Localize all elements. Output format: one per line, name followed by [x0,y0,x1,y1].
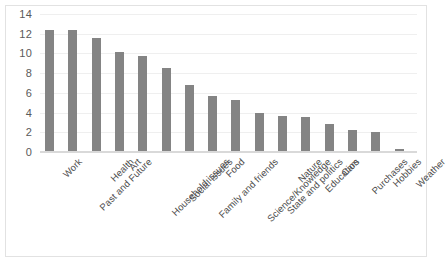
y-axis-tick-label: 6 [26,87,32,99]
y-axis-tick-label: 2 [26,126,32,138]
y-axis-tick-label: 10 [19,47,32,59]
bar [278,116,287,151]
y-axis-tick-label: 4 [26,107,32,119]
bar [301,117,310,152]
plot-area [40,14,417,152]
bar [185,85,194,151]
bar [92,38,101,151]
x-axis-label: Social issues [187,156,235,204]
x-axis-line [40,151,417,152]
y-axis: 02468101214 [0,14,36,152]
bar [255,113,264,151]
bar [348,130,357,151]
bar [208,96,217,151]
bar [162,68,171,151]
bar [325,124,334,151]
bar-series [40,14,417,151]
bar [231,100,240,151]
bar [115,52,124,151]
y-axis-tick-label: 8 [26,67,32,79]
bar [138,56,147,151]
y-axis-tick-label: 12 [19,28,32,40]
x-axis-label: Work [60,156,84,180]
y-axis-tick-label: 14 [19,8,32,20]
bar [371,132,380,151]
x-axis-category-labels: WorkPast and FutureHealthArtHousehold is… [0,153,433,253]
bar [45,30,54,151]
bar [68,30,77,151]
